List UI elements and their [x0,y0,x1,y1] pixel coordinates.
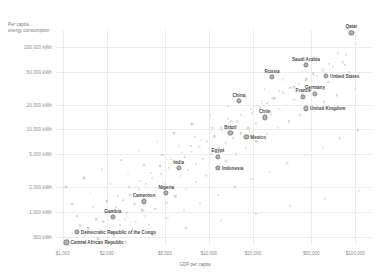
data-point[interactable] [328,63,330,65]
data-point[interactable] [244,117,246,119]
data-point-highlighted[interactable] [270,75,275,80]
data-point[interactable] [289,86,292,89]
data-point[interactable] [269,170,271,172]
data-point[interactable] [316,74,318,76]
data-point[interactable] [247,127,250,130]
data-point[interactable] [161,154,163,156]
data-point[interactable] [199,202,201,204]
data-point[interactable] [355,43,357,45]
data-point[interactable] [124,241,127,244]
data-point-highlighted[interactable] [228,131,233,136]
data-point[interactable] [90,192,92,194]
data-point[interactable] [233,186,236,189]
data-point[interactable] [180,176,182,178]
data-point[interactable] [190,150,193,153]
data-point[interactable] [143,164,146,167]
data-point[interactable] [217,194,219,196]
data-point[interactable] [287,120,289,122]
data-point[interactable] [337,52,340,55]
data-point[interactable] [299,113,302,116]
data-point[interactable] [290,205,292,207]
data-point[interactable] [338,137,341,140]
data-point[interactable] [332,65,334,67]
data-point[interactable] [336,94,338,96]
data-point[interactable] [178,145,180,147]
data-point[interactable] [254,122,257,125]
data-point[interactable] [201,139,203,141]
data-point[interactable] [113,235,115,237]
data-point[interactable] [109,183,111,185]
data-point[interactable] [91,206,93,208]
data-point[interactable] [150,171,152,173]
data-point[interactable] [139,180,141,182]
data-point-highlighted[interactable] [176,166,181,171]
data-point[interactable] [209,114,211,116]
data-point[interactable] [322,101,325,104]
data-point[interactable] [158,165,161,168]
data-point[interactable] [358,190,360,192]
data-point-highlighted[interactable] [236,99,241,104]
data-point[interactable] [213,135,215,137]
data-point[interactable] [191,123,194,126]
data-point[interactable] [304,154,306,156]
data-point[interactable] [183,156,186,159]
data-point[interactable] [264,88,266,90]
data-point[interactable] [244,110,246,112]
data-point[interactable] [273,97,275,99]
data-point[interactable] [148,224,150,226]
data-point[interactable] [123,199,125,201]
data-point[interactable] [240,113,243,116]
data-point-highlighted[interactable] [303,106,308,111]
data-point[interactable] [64,186,67,189]
data-point[interactable] [240,132,242,134]
data-point[interactable] [206,140,208,142]
data-point[interactable] [220,126,223,129]
data-point[interactable] [295,82,297,84]
data-point-highlighted[interactable] [164,190,169,195]
data-point[interactable] [145,183,147,185]
data-point[interactable] [100,168,103,171]
data-point[interactable] [156,198,158,200]
data-point-highlighted[interactable] [303,63,308,68]
data-point-highlighted[interactable] [262,115,267,120]
data-point[interactable] [329,69,331,71]
data-point[interactable] [344,64,346,66]
data-point[interactable] [187,170,189,172]
data-point[interactable] [174,195,176,197]
data-point[interactable] [133,203,136,206]
data-point[interactable] [301,70,303,72]
data-point[interactable] [117,195,119,197]
data-point[interactable] [183,209,185,211]
data-point[interactable] [327,80,330,83]
data-point[interactable] [232,137,235,140]
data-point-highlighted[interactable] [110,215,115,220]
data-point[interactable] [255,212,257,214]
data-point[interactable] [224,141,227,144]
data-point[interactable] [83,176,86,179]
data-point[interactable] [266,133,268,135]
data-point-highlighted[interactable] [141,199,146,204]
data-point-highlighted[interactable] [323,73,328,78]
data-point[interactable] [285,162,288,165]
data-point[interactable] [124,218,126,220]
data-point[interactable] [227,106,229,108]
data-point[interactable] [251,108,253,110]
data-point[interactable] [298,83,300,85]
data-point[interactable] [152,234,155,237]
data-point[interactable] [266,102,268,104]
data-point[interactable] [160,172,163,175]
data-point-highlighted[interactable] [64,240,69,245]
data-point[interactable] [119,224,121,226]
data-point[interactable] [156,141,158,143]
data-point-highlighted[interactable] [312,91,317,96]
data-point[interactable] [144,215,146,217]
data-point[interactable] [127,173,129,175]
data-point[interactable] [305,79,308,82]
data-point[interactable] [221,130,223,132]
data-point[interactable] [230,120,232,122]
data-point[interactable] [322,146,324,148]
data-point[interactable] [195,181,197,183]
data-point[interactable] [134,221,136,223]
data-point[interactable] [190,145,192,147]
data-point[interactable] [357,129,360,132]
